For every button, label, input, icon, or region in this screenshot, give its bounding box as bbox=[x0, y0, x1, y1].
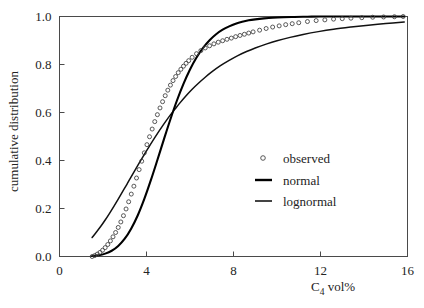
y-tick-label: 0.6 bbox=[35, 105, 52, 120]
x-axis-title: C4 vol% bbox=[311, 279, 355, 297]
chart-background bbox=[0, 0, 424, 308]
x-tick-label: 16 bbox=[401, 263, 415, 278]
x-tick-label: 12 bbox=[314, 263, 327, 278]
y-tick-label: 0.0 bbox=[35, 249, 51, 264]
chart-figure: 0481216 0.00.20.40.60.81.0 observed norm… bbox=[0, 0, 424, 308]
y-tick-label: 0.8 bbox=[35, 57, 51, 72]
legend-label-observed: observed bbox=[283, 151, 330, 166]
x-tick-label: 8 bbox=[230, 263, 237, 278]
x-axis-title-base: C bbox=[311, 279, 320, 294]
y-tick-label: 1.0 bbox=[35, 9, 51, 24]
y-tick-label: 0.4 bbox=[35, 153, 52, 168]
legend-label-lognormal: lognormal bbox=[283, 194, 337, 209]
x-axis-title-rest: vol% bbox=[324, 279, 355, 294]
legend-label-normal: normal bbox=[283, 173, 320, 188]
y-axis-title: cumulative distribution bbox=[6, 71, 21, 192]
x-tick-label: 4 bbox=[143, 263, 150, 278]
x-tick-label: 0 bbox=[56, 263, 63, 278]
y-tick-label: 0.2 bbox=[35, 201, 51, 216]
x-axis-title-group: C4 vol% bbox=[311, 279, 355, 297]
y-axis-title-group: cumulative distribution bbox=[6, 71, 21, 192]
cumulative-distribution-chart: 0481216 0.00.20.40.60.81.0 observed norm… bbox=[0, 0, 424, 308]
